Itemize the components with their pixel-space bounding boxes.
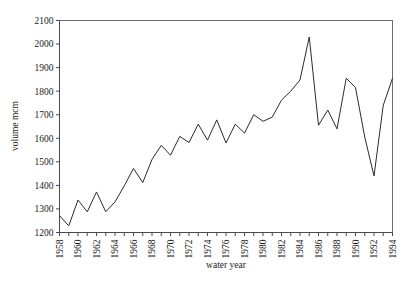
y-tick-label: 1700: [35, 110, 54, 120]
y-tick-label: 1800: [35, 87, 54, 97]
x-tick-label: 1966: [129, 239, 139, 258]
y-tick-label: 2000: [35, 39, 54, 49]
x-tick-label: 1984: [295, 239, 305, 258]
y-tick-label: 1600: [35, 134, 54, 144]
x-tick-label: 1974: [203, 239, 213, 258]
x-axis-title: water year: [206, 260, 247, 270]
x-tick-label: 1972: [184, 239, 194, 258]
y-tick-label: 1300: [35, 204, 54, 214]
y-tick-label: 1500: [35, 157, 54, 167]
x-tick-label: 1958: [55, 239, 65, 258]
x-tick-label: 1982: [277, 239, 287, 258]
x-tick-label: 1960: [73, 239, 83, 258]
x-tick-label: 1968: [147, 239, 157, 258]
y-tick-label: 1200: [35, 228, 54, 238]
x-tick-label: 1988: [332, 239, 342, 258]
x-tick-label: 1978: [240, 239, 250, 258]
y-tick-label: 1400: [35, 181, 54, 191]
line-chart: 1200130014001500160017001800190020002100…: [0, 0, 412, 283]
x-tick-label: 1962: [92, 239, 102, 258]
y-axis-title: volume mcm: [10, 100, 20, 150]
x-tick-label: 1976: [221, 239, 231, 258]
y-tick-label: 2100: [35, 16, 54, 26]
x-tick-label: 1994: [388, 239, 398, 258]
chart-container: 1200130014001500160017001800190020002100…: [0, 0, 412, 283]
y-tick-label: 1900: [35, 63, 54, 73]
x-tick-label: 1970: [166, 239, 176, 258]
x-tick-label: 1964: [110, 239, 120, 258]
x-tick-label: 1992: [369, 239, 379, 258]
x-tick-label: 1980: [258, 239, 268, 258]
x-tick-label: 1990: [351, 239, 361, 258]
x-tick-label: 1986: [314, 239, 324, 258]
